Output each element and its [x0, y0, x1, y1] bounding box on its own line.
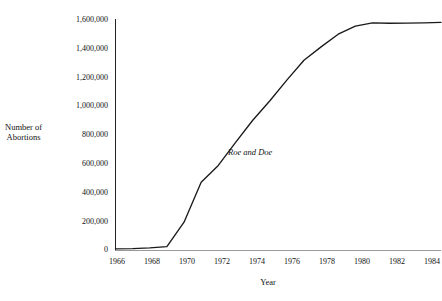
x-tick-label-1976: 1976 — [278, 257, 306, 266]
y-tick-label-200000: 200,000 — [52, 217, 108, 226]
abortions-line-chart: 1,600,000 1,400,000 1,200,000 1,000,000 … — [0, 0, 442, 301]
x-tick-label-1966: 1966 — [103, 257, 131, 266]
y-tick-label-400000: 400,000 — [52, 188, 108, 197]
y-tick-label-0: 0 — [52, 245, 108, 254]
x-tick-label-1972: 1972 — [208, 257, 236, 266]
x-axis-title: Year — [248, 277, 288, 287]
x-tick-label-1980: 1980 — [348, 257, 376, 266]
x-tick-label-1982: 1982 — [383, 257, 411, 266]
x-tick-label-1978: 1978 — [313, 257, 341, 266]
y-axis-title-line1: Number of — [5, 122, 42, 132]
x-tick-label-1984: 1984 — [418, 257, 442, 266]
y-tick-label-1400000: 1,400,000 — [52, 44, 108, 53]
x-tick-label-1974: 1974 — [243, 257, 271, 266]
y-tick-label-1200000: 1,200,000 — [52, 73, 108, 82]
y-tick-label-600000: 600,000 — [52, 159, 108, 168]
data-series-line — [116, 22, 442, 248]
y-axis-title-line2: Abortions — [5, 132, 42, 142]
x-tick-label-1970: 1970 — [173, 257, 201, 266]
y-axis-title: Number of Abortions — [5, 122, 42, 142]
y-tick-label-1600000: 1,600,000 — [52, 15, 108, 24]
x-tick-label-1968: 1968 — [138, 257, 166, 266]
roe-and-doe-annotation: Roe and Doe — [228, 147, 272, 157]
y-tick-label-800000: 800,000 — [52, 130, 108, 139]
y-tick-label-1000000: 1,000,000 — [52, 101, 108, 110]
